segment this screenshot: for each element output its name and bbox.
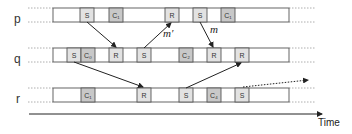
event-label: R [113, 52, 118, 59]
checkpoint-label: C₄ [210, 92, 218, 99]
message-label-m-prime: m′ [163, 27, 174, 39]
message-arrow [87, 22, 116, 47]
event-label: S [240, 92, 245, 99]
in-transit-message-arrow [243, 80, 308, 87]
event-label: S [198, 12, 203, 19]
checkpoint-label: C₀ [84, 52, 92, 59]
message-arrow [74, 62, 143, 87]
message-arrow [186, 63, 241, 88]
checkpoint-label: C₁ [112, 12, 120, 19]
checkpoint-label: C₁ [224, 12, 232, 19]
checkpoint-label: C₂ [182, 52, 190, 59]
checkpoint-label: C₁ [84, 92, 92, 99]
message-label-m: m [210, 23, 218, 35]
time-axis-label: Time [318, 117, 340, 128]
event-label: S [142, 52, 147, 59]
process-label-p: p [14, 12, 21, 26]
event-label: R [141, 92, 146, 99]
event-label: R [211, 52, 216, 59]
process-label-r: r [16, 92, 20, 106]
event-label: R [169, 12, 174, 19]
distributed-timeline-diagram: p q r S C₁ R S C₁ S C₀ R S C₂ [0, 0, 352, 134]
event-label: S [184, 92, 189, 99]
process-label-q: q [14, 52, 21, 66]
event-label: S [85, 12, 90, 19]
event-label: R [239, 52, 244, 59]
event-label: S [72, 52, 77, 59]
